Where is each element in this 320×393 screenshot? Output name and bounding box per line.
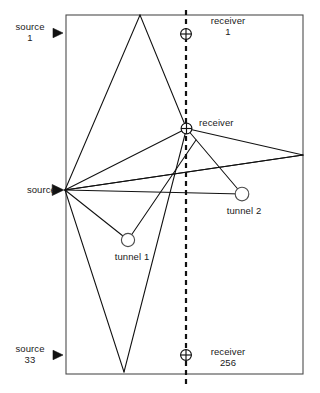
receiver-label-256: receiver 256	[197, 347, 259, 368]
tunnel-label-1-line1: tunnel 1	[100, 252, 164, 263]
source-label-33: source 33	[4, 344, 56, 365]
ray-source-hub-to-tunnel1	[65, 190, 128, 240]
receiver-hub-label-line1: receiver	[199, 118, 234, 129]
source-hub-label-line1: source	[2, 185, 56, 196]
receiver-label-1: receiver 1	[197, 16, 259, 37]
source-label-33-line2: 33	[4, 355, 56, 366]
diagram-canvas	[0, 0, 320, 393]
marker-group	[52, 28, 249, 360]
receiver-marker-hub	[181, 123, 192, 134]
source-hub-label: source	[2, 185, 56, 196]
ray-path-diagram: source 1 source 33 source receiver 1 rec…	[0, 0, 320, 393]
receiver-marker-256	[181, 350, 192, 361]
tunnel-label-1: tunnel 1	[100, 252, 164, 263]
ray-source-hub-to-top-apex	[65, 15, 140, 190]
ray-receiver-hub-to-right-edge	[187, 129, 304, 156]
ray-receiver-hub-to-tunnel2	[187, 129, 243, 195]
receiver-label-1-line2: 1	[197, 27, 259, 38]
receiver-label-256-line2: 256	[197, 358, 259, 369]
tunnel-circle-2	[235, 187, 249, 201]
ray-top-apex-to-receiver-hub	[140, 15, 187, 129]
ray-source-hub-to-tunnel2	[65, 190, 242, 194]
model-domain-rectangle	[66, 15, 303, 374]
ray-path-group	[65, 15, 303, 372]
tunnel-circle-1	[121, 233, 134, 246]
tunnel-label-2-line1: tunnel 2	[212, 206, 276, 217]
ray-source-hub-to-bottom-apex	[65, 190, 124, 372]
source-label-1: source 1	[4, 22, 56, 43]
tunnel-label-2: tunnel 2	[212, 206, 276, 217]
receiver-marker-1	[181, 29, 192, 40]
receiver-hub-label: receiver	[199, 118, 234, 129]
source-label-1-line2: 1	[4, 33, 56, 44]
